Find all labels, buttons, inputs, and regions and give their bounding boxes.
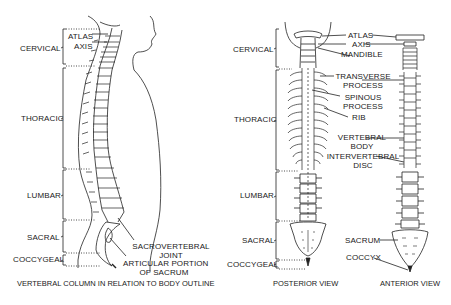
label-intervertebral-disc: INTERVERTEBRAL DISC xyxy=(323,153,403,170)
sacrovertebral-line-1: SACROVERTEBRAL xyxy=(131,243,211,251)
articular-line-1: ARTICULAR PORTION xyxy=(123,260,205,268)
lateral-region-sacral: SACRAL xyxy=(27,234,60,242)
anterior-caption: ANTERIOR VIEW xyxy=(380,280,440,288)
intervertebral-line-1: INTERVERTEBRAL xyxy=(323,153,403,161)
lateral-region-cervical: CERVICAL xyxy=(20,45,61,53)
transverse-line-1: TRANSVERSE xyxy=(328,73,398,81)
lateral-label-sacrovertebral: SACROVERTEBRAL JOINT xyxy=(131,243,211,260)
lateral-label-axis: AXIS xyxy=(74,43,93,51)
posterior-region-lumbar: LUMBAR xyxy=(240,192,274,200)
intervertebral-line-2: DISC xyxy=(323,162,403,170)
label-spinous-process: SPINOUS PROCESS xyxy=(328,94,398,111)
lateral-label-articular-portion: ARTICULAR PORTION OF SACRUM xyxy=(123,260,205,277)
spinous-line-2: PROCESS xyxy=(328,103,398,111)
label-mandible: MANDIBLE xyxy=(341,51,383,59)
posterior-caption: POSTERIOR VIEW xyxy=(273,280,338,288)
label-transverse-process: TRANSVERSE PROCESS xyxy=(328,73,398,90)
lateral-spine xyxy=(82,28,150,272)
spinous-line-1: SPINOUS xyxy=(328,94,398,102)
posterior-region-sacral: SACRAL xyxy=(242,237,275,245)
label-sacrum: SACRUM xyxy=(345,237,380,245)
lateral-caption: VERTEBRAL COLUMN IN RELATION TO BODY OUT… xyxy=(17,280,214,288)
label-axis: AXIS xyxy=(352,41,371,49)
lateral-region-lumbar: LUMBAR xyxy=(27,192,61,200)
lateral-region-thoracic: THORACIC xyxy=(21,115,64,123)
posterior-region-thoracic: THORACIC xyxy=(234,116,277,124)
lateral-region-coccygeal: COCCYGEAL xyxy=(13,256,64,264)
label-rib: RIB xyxy=(352,114,366,122)
vertebral-body-line-1: VERTEBRAL xyxy=(332,134,392,142)
label-atlas: ATLAS xyxy=(348,32,373,40)
lateral-label-atlas: ATLAS xyxy=(68,33,93,41)
transverse-line-2: PROCESS xyxy=(328,82,398,90)
label-coccyx: COCCYX xyxy=(346,254,381,262)
posterior-region-coccygeal: COCCYGEAL xyxy=(227,261,278,269)
articular-line-2: OF SACRUM xyxy=(123,269,205,277)
vertebral-body-line-2: BODY xyxy=(332,143,392,151)
label-vertebral-body: VERTEBRAL BODY xyxy=(332,134,392,151)
posterior-region-cervical: CERVICAL xyxy=(233,46,274,54)
body-outline xyxy=(78,16,161,268)
